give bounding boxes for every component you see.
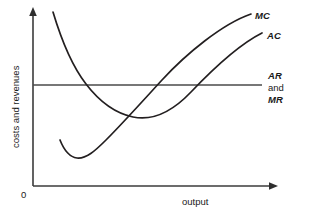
ac-curve-label: AC [266, 30, 281, 41]
arrow-up-icon [29, 7, 37, 16]
ar-label: AR [267, 70, 282, 81]
and-label: and [268, 82, 284, 93]
arrow-right-icon [269, 182, 278, 190]
mr-label: MR [268, 94, 283, 105]
mc-curve-label: MC [255, 10, 270, 21]
origin-label: 0 [21, 189, 26, 200]
diagram-canvas: costs and revenues output 0 MC AC AR and… [0, 0, 310, 215]
ac-curve [53, 12, 262, 118]
x-axis-title: output [182, 196, 209, 207]
y-axis-title: costs and revenues [10, 65, 21, 148]
cost-revenue-diagram: costs and revenues output 0 MC AC AR and… [0, 0, 310, 215]
